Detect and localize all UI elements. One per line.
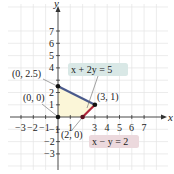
graph: x y −3 −2 −1 1 3 4 5 6 7 7 6 5 4 2 1 −1 …	[0, 0, 174, 174]
vertex-label: (2, 0)	[61, 129, 83, 141]
y-tick: −2	[44, 136, 55, 147]
y-tick: 5	[49, 50, 54, 61]
vertex-2-0	[80, 115, 85, 120]
y-tick: −3	[44, 148, 55, 159]
x-axis-arrow-icon	[161, 115, 167, 120]
vertex-3-1	[93, 102, 98, 107]
vertex-label: (3, 1)	[97, 91, 119, 103]
x-tick: −3	[15, 122, 26, 133]
x-axis-label: x	[167, 111, 173, 123]
equation-label-2: x − y = 2	[92, 136, 128, 147]
vertex-0-2.5	[56, 84, 61, 89]
x-tick: 3	[92, 122, 97, 133]
vertex-label: (0, 2.5)	[12, 68, 41, 80]
y-tick: 6	[49, 38, 54, 49]
x-tick: 6	[129, 122, 134, 133]
x-tick: −2	[27, 122, 38, 133]
vertex-label: (0, 0)	[23, 92, 45, 104]
y-tick: 4	[49, 62, 54, 73]
y-tick: −1	[49, 124, 60, 135]
x-tick: 7	[142, 122, 147, 133]
y-tick: 7	[49, 26, 54, 37]
y-tick: 2	[49, 87, 54, 98]
vertex-0-0	[56, 115, 61, 120]
y-axis-label: y	[53, 0, 59, 9]
y-tick: 1	[49, 99, 54, 110]
x-tick: 5	[117, 122, 122, 133]
equation-label-1: x + 2y = 5	[71, 64, 112, 75]
x-tick: 4	[105, 122, 110, 133]
grid	[8, 4, 168, 170]
